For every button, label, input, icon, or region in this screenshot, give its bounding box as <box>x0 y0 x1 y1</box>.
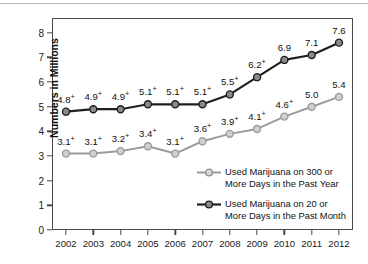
legend-label-past-year: Used Marijuana on 300 or More Days in th… <box>225 166 346 189</box>
top-divider-rule <box>0 3 368 4</box>
x-tick-mark-2012 <box>338 230 339 235</box>
legend-marker-icon-past-year <box>196 167 222 178</box>
point-label: 5.1+ <box>139 86 157 97</box>
legend-item-past-month: Used Marijuana on 20 or More Days in the… <box>196 198 346 221</box>
point-label: 3.2+ <box>112 133 130 144</box>
point-label: 5.5+ <box>221 76 239 87</box>
legend-label-past-month: Used Marijuana on 20 or More Days in the… <box>225 198 346 221</box>
point-label: 4.9+ <box>112 91 130 102</box>
y-tick-mark-4 <box>47 131 52 132</box>
y-tick-label-7: 7 <box>22 52 44 63</box>
x-tick-mark-2003 <box>93 230 94 235</box>
point-label: 3.9+ <box>221 116 239 127</box>
y-tick-label-2: 2 <box>22 175 44 186</box>
x-tick-mark-2007 <box>202 230 203 235</box>
point-label: 3.4+ <box>139 128 157 139</box>
chart-legend: Used Marijuana on 300 or More Days in th… <box>196 166 346 230</box>
chart-figure: Numbers in Millions 012345678 2002200320… <box>0 0 368 264</box>
y-tick-label-6: 6 <box>22 77 44 88</box>
point-label: 6.2+ <box>248 59 266 70</box>
y-tick-mark-5 <box>47 106 52 107</box>
y-tick-mark-1 <box>47 205 52 206</box>
y-tick-label-0: 0 <box>22 225 44 236</box>
point-label: 4.6+ <box>276 99 294 110</box>
point-label: 3.1+ <box>84 136 102 147</box>
y-tick-mark-6 <box>47 81 52 82</box>
point-label: 5.1+ <box>166 86 184 97</box>
x-tick-mark-2005 <box>147 230 148 235</box>
point-label: 7.1 <box>305 37 318 48</box>
point-label: 4.1+ <box>248 111 266 122</box>
x-tick-mark-2006 <box>174 230 175 235</box>
point-label: 5.0 <box>305 89 318 100</box>
point-label: 4.8+ <box>57 94 75 105</box>
y-tick-label-8: 8 <box>22 27 44 38</box>
x-tick-mark-2004 <box>120 230 121 235</box>
y-tick-mark-2 <box>47 180 52 181</box>
y-tick-label-5: 5 <box>22 101 44 112</box>
point-label: 7.6 <box>332 25 345 36</box>
y-tick-mark-8 <box>47 32 52 33</box>
y-tick-mark-7 <box>47 57 52 58</box>
legend-item-past-year: Used Marijuana on 300 or More Days in th… <box>196 166 346 189</box>
x-tick-mark-2009 <box>256 230 257 235</box>
x-tick-mark-2011 <box>311 230 312 235</box>
x-tick-label-2012: 2012 <box>321 238 357 249</box>
y-tick-mark-3 <box>47 155 52 156</box>
y-tick-label-1: 1 <box>22 200 44 211</box>
x-tick-mark-2008 <box>229 230 230 235</box>
y-tick-label-3: 3 <box>22 151 44 162</box>
y-tick-label-4: 4 <box>22 126 44 137</box>
point-label: 3.1+ <box>57 136 75 147</box>
legend-marker-icon-past-month <box>196 199 222 210</box>
point-label: 3.1+ <box>166 136 184 147</box>
point-label: 5.4 <box>332 79 345 90</box>
point-label: 5.1+ <box>194 86 212 97</box>
point-label: 4.9+ <box>84 91 102 102</box>
point-label: 3.6+ <box>194 123 212 134</box>
y-tick-mark-0 <box>47 229 52 230</box>
point-label: 6.9 <box>278 42 291 53</box>
x-tick-mark-2010 <box>284 230 285 235</box>
x-tick-mark-2002 <box>65 230 66 235</box>
